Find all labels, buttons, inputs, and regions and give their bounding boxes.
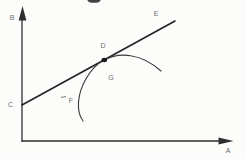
label-d: D: [100, 42, 105, 49]
y-axis-arrowhead-icon: [19, 6, 27, 21]
label-f: F: [69, 97, 73, 104]
x-axis-label: A: [226, 147, 231, 154]
tangent-point-dot: [102, 58, 108, 62]
x-axis-arrowhead-icon: [219, 138, 234, 145]
label-c: C: [8, 101, 13, 108]
diagram-figure: B A C D E G F: [0, 0, 246, 159]
diagram-canvas: B A C D E G F: [0, 0, 246, 159]
label-e: E: [154, 10, 159, 17]
concave-curve: [78, 55, 161, 121]
f-tick-mark: [61, 97, 66, 98]
y-axis-label: B: [10, 14, 15, 21]
label-g: G: [108, 74, 113, 81]
scan-artifact-smudge: [88, 0, 101, 3]
